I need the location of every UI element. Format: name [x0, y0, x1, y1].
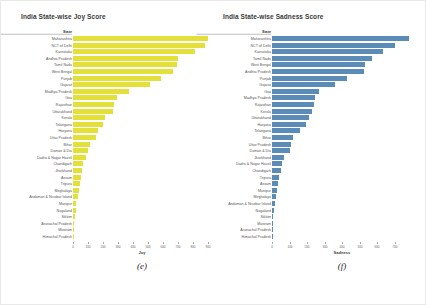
category-label: Meghalaya	[193, 196, 271, 200]
category-label: Jharkhand	[0, 169, 72, 173]
x-tick-label: 500	[354, 245, 364, 248]
x-tick-mark	[103, 242, 104, 244]
x-tick-mark	[360, 242, 361, 244]
x-tick-label: 400	[128, 245, 138, 248]
category-label: Meghalaya	[0, 189, 72, 193]
category-label: Manipur	[193, 189, 271, 193]
bar	[272, 43, 395, 48]
category-label: Madhya Pradesh	[0, 90, 72, 94]
x-tick-mark	[290, 242, 291, 244]
x-tick-mark	[208, 242, 209, 244]
x-tick-label: 200	[302, 245, 312, 248]
bar	[272, 122, 306, 127]
category-label: Haryana	[193, 123, 271, 127]
category-label: Assam	[193, 182, 271, 186]
bar	[73, 36, 208, 41]
bar	[73, 221, 74, 226]
bar	[73, 135, 96, 140]
x-tick-label: 400	[337, 245, 347, 248]
x-tick-label: 200	[98, 245, 108, 248]
x-tick-label: 100	[284, 245, 294, 248]
category-label: Bihar	[193, 136, 271, 140]
category-label: West Bengal	[193, 64, 271, 68]
bar	[272, 95, 315, 100]
category-label: Sikkim	[193, 215, 271, 219]
category-label: Andhra Pradesh	[193, 70, 271, 74]
bar	[73, 102, 114, 107]
category-label: Tamil Nadu	[0, 64, 72, 68]
sadness-caption: (f)	[272, 261, 412, 271]
bar	[272, 56, 372, 61]
bar	[73, 194, 78, 199]
x-tick-mark	[133, 242, 134, 244]
x-tick-mark	[118, 242, 119, 244]
bar	[73, 148, 88, 153]
category-label: Daman & Diu	[193, 149, 271, 153]
x-tick-label: 300	[113, 245, 123, 248]
category-label: Daman & Diu	[0, 149, 72, 153]
bar	[272, 155, 284, 160]
x-tick-label: 0	[68, 245, 78, 248]
x-tick-mark	[342, 242, 343, 244]
x-tick-label: 700	[173, 245, 183, 248]
joy-chart-title: India State-wise Joy Score	[21, 13, 106, 20]
category-label: Nagaland	[0, 209, 72, 213]
joy-chart-panel: India State-wise Joy Score State Maharas…	[1, 1, 214, 305]
bar	[272, 181, 278, 186]
x-tick-mark	[163, 242, 164, 244]
category-label: Uttar Pradesh	[193, 143, 271, 147]
category-label: Madhya Pradesh	[193, 97, 271, 101]
category-label: Mizoram	[0, 229, 72, 233]
category-label: Punjab	[0, 77, 72, 81]
bar	[272, 128, 300, 133]
x-tick-mark	[325, 242, 326, 244]
x-tick-label: 600	[158, 245, 168, 248]
bar	[73, 89, 129, 94]
category-label: Uttarakhand	[193, 116, 271, 120]
x-tick-mark	[73, 242, 74, 244]
x-tick-label: 600	[372, 245, 382, 248]
x-tick-mark	[272, 242, 273, 244]
bar	[272, 36, 409, 41]
category-label: Rajasthan	[193, 103, 271, 107]
bar	[73, 43, 205, 48]
x-tick-label: 900	[203, 245, 213, 248]
bar	[73, 168, 82, 173]
x-tick-label: 800	[188, 245, 198, 248]
category-label: Sikkim	[0, 215, 72, 219]
category-label: Telangana	[193, 130, 271, 134]
category-label: Jharkhand	[193, 156, 271, 160]
bar	[73, 227, 74, 232]
category-label: Andaman & Nicobar Island	[0, 196, 72, 200]
bar	[73, 128, 98, 133]
category-label: Punjab	[193, 77, 271, 81]
bar	[73, 214, 75, 219]
bar	[272, 89, 319, 94]
bar	[73, 155, 86, 160]
category-label: Uttar Pradesh	[0, 136, 72, 140]
x-tick-label: 700	[389, 245, 399, 248]
category-label: Dadra & Nagar Haveli	[193, 163, 271, 167]
category-label: Assam	[0, 176, 72, 180]
category-label: Karnataka	[193, 50, 271, 54]
category-label: Nagaland	[193, 209, 271, 213]
category-label: Himachal Pradesh	[0, 235, 72, 239]
category-label: Tripura	[193, 176, 271, 180]
bar	[272, 82, 335, 87]
bar	[272, 221, 273, 226]
bar	[73, 175, 81, 180]
bar	[73, 76, 161, 81]
category-label: Chandigarh	[193, 169, 271, 173]
bar	[73, 56, 178, 61]
x-tick-label: 0	[267, 245, 277, 248]
category-label: Gujarat	[0, 83, 72, 87]
bar	[73, 161, 83, 166]
category-label: Manipur	[0, 202, 72, 206]
x-tick-label: 100	[83, 245, 93, 248]
bar	[73, 109, 113, 114]
bar	[272, 148, 290, 153]
bar	[272, 102, 314, 107]
category-label: Maharashtra	[0, 37, 72, 41]
category-label: Tamil Nadu	[193, 57, 271, 61]
category-label: Kerala	[193, 110, 271, 114]
